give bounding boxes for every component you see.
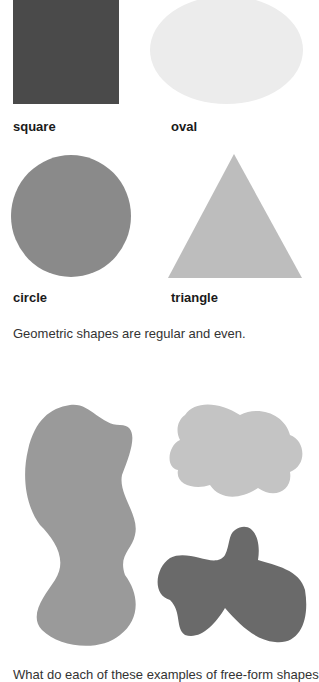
circle-label: circle bbox=[13, 290, 47, 305]
freeform-shapes bbox=[0, 390, 314, 670]
square-shape bbox=[13, 0, 119, 104]
triangle-shape bbox=[168, 154, 302, 278]
dark-blob-shape bbox=[158, 527, 307, 642]
square-label: square bbox=[13, 119, 56, 134]
oval-shape bbox=[150, 0, 303, 104]
circle-shape bbox=[11, 155, 131, 277]
geometric-caption: Geometric shapes are regular and even. bbox=[13, 326, 246, 341]
freeform-caption: What do each of these examples of free-f… bbox=[13, 667, 319, 682]
oval-label: oval bbox=[171, 119, 197, 134]
cloud-shape bbox=[170, 404, 303, 496]
tall-blob-shape bbox=[25, 405, 136, 646]
triangle-label: triangle bbox=[171, 290, 218, 305]
